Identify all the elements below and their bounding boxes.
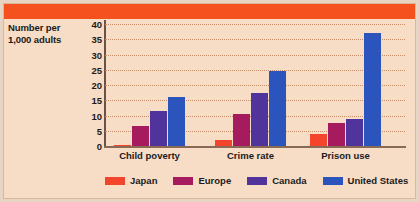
y-axis-title-line-2: 1,000 adults: [8, 34, 80, 46]
legend-item[interactable]: United States: [323, 175, 409, 186]
y-axis-tick-label: 30: [91, 49, 102, 60]
legend-swatch: [173, 177, 193, 185]
y-axis-tick-label: 20: [91, 80, 102, 91]
bar: [150, 111, 167, 146]
bar: [132, 126, 149, 146]
y-axis-tick-label: 10: [91, 110, 102, 121]
x-axis-baseline: [104, 146, 406, 148]
legend-label: Japan: [130, 175, 157, 186]
y-axis-tick-label: 15: [91, 95, 102, 106]
category-label: Crime rate: [215, 150, 286, 161]
bar: [346, 119, 363, 146]
legend-label: United States: [348, 175, 409, 186]
legend-item[interactable]: Europe: [173, 175, 231, 186]
y-axis-tick-label: 40: [91, 19, 102, 30]
y-axis-title-line-1: Number per: [8, 22, 80, 34]
category-label: Prison use: [310, 150, 381, 161]
legend-label: Canada: [272, 175, 306, 186]
plot-area: [105, 24, 405, 146]
y-axis-tick-labels: 0510152025303540: [78, 24, 102, 146]
legend-swatch: [105, 177, 125, 185]
y-axis-tick-label: 35: [91, 34, 102, 45]
legend-label: Europe: [198, 175, 231, 186]
bar-group: [215, 24, 286, 146]
bar: [233, 114, 250, 146]
bar-group: [114, 24, 185, 146]
bar: [269, 71, 286, 146]
bar-group: [310, 24, 381, 146]
top-orange-banner: [4, 4, 415, 19]
bar: [251, 93, 268, 146]
y-axis-tick-label: 0: [97, 141, 102, 152]
y-axis-tick-label: 5: [97, 125, 102, 136]
bar: [364, 33, 381, 146]
bar: [168, 97, 185, 146]
bar: [310, 134, 327, 146]
legend-item[interactable]: Canada: [247, 175, 306, 186]
y-axis-title: Number per 1,000 adults: [8, 22, 80, 46]
chart-figure: Number per 1,000 adults 0510152025303540…: [0, 0, 419, 202]
legend-swatch: [323, 177, 343, 185]
legend-item[interactable]: Japan: [105, 175, 157, 186]
chart-legend: JapanEuropeCanadaUnited States: [105, 175, 419, 186]
category-label: Child poverty: [114, 150, 185, 161]
y-axis-tick-label: 25: [91, 64, 102, 75]
legend-swatch: [247, 177, 267, 185]
bar: [328, 123, 345, 146]
